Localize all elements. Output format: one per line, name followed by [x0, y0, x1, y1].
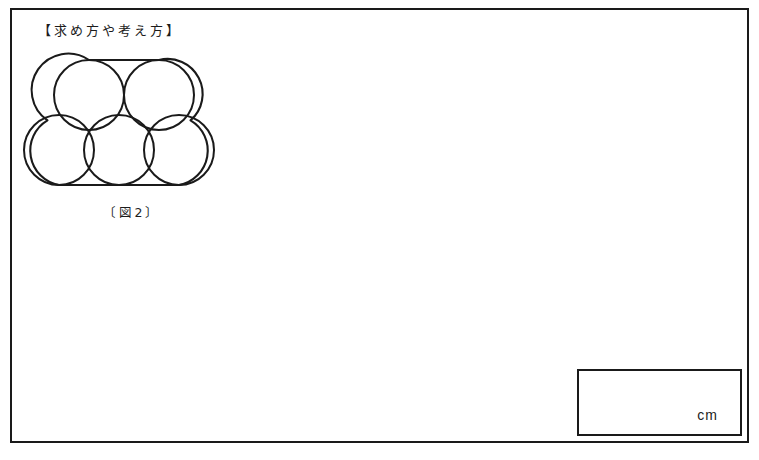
- figure-block: 〔図2〕: [14, 50, 250, 240]
- five-circles-band-figure: [14, 50, 250, 200]
- section-heading: 【求め方や考え方】: [38, 20, 182, 39]
- top-left-circle: [54, 60, 124, 130]
- answer-entry-area[interactable]: [579, 371, 740, 434]
- answer-box[interactable]: cm: [577, 369, 742, 436]
- answer-unit-label: cm: [697, 407, 718, 423]
- top-right-circle: [124, 60, 194, 130]
- band-outline: [30, 54, 207, 185]
- figure-caption: 〔図2〕: [14, 202, 250, 221]
